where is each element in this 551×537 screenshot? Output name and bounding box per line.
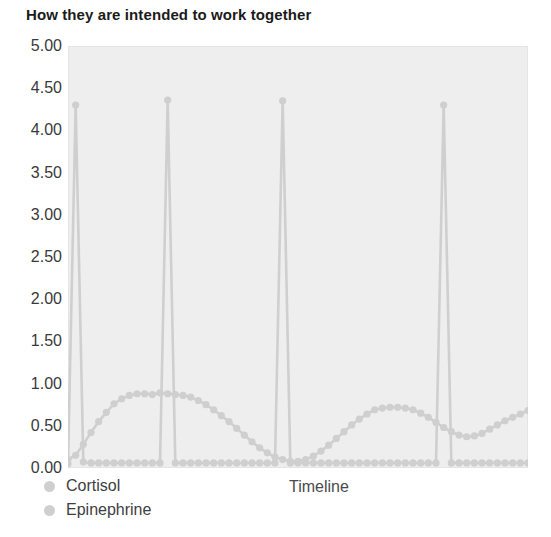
data-point bbox=[463, 433, 470, 440]
y-axis-tick-label: 0.50 bbox=[4, 417, 62, 435]
data-point bbox=[524, 459, 528, 466]
data-point bbox=[310, 453, 317, 460]
data-point bbox=[241, 459, 248, 466]
data-point bbox=[379, 459, 386, 466]
data-point bbox=[210, 406, 217, 413]
y-axis-tick-label: 4.50 bbox=[4, 79, 62, 97]
data-point bbox=[95, 459, 102, 466]
data-point bbox=[440, 101, 447, 108]
data-point bbox=[425, 459, 432, 466]
data-point bbox=[187, 394, 194, 401]
legend-swatch-epinephrine bbox=[44, 505, 55, 516]
data-point bbox=[241, 431, 248, 438]
data-point bbox=[471, 432, 478, 439]
data-point bbox=[179, 392, 186, 399]
data-point bbox=[325, 459, 332, 466]
data-point bbox=[72, 452, 79, 459]
data-point bbox=[87, 429, 94, 436]
data-point bbox=[118, 395, 125, 402]
data-point bbox=[287, 459, 294, 466]
chart-series-layer bbox=[68, 46, 528, 468]
data-point bbox=[103, 409, 110, 416]
data-point bbox=[333, 435, 340, 442]
data-point bbox=[310, 459, 317, 466]
data-point bbox=[248, 438, 255, 445]
data-point bbox=[386, 459, 393, 466]
chart-legend: Cortisol Epinephrine bbox=[44, 474, 151, 522]
data-point bbox=[110, 459, 117, 466]
data-point bbox=[471, 459, 478, 466]
legend-item-epinephrine[interactable]: Epinephrine bbox=[44, 498, 151, 522]
data-point bbox=[501, 417, 508, 424]
data-point bbox=[494, 459, 501, 466]
data-point bbox=[210, 459, 217, 466]
data-point bbox=[195, 397, 202, 404]
data-point bbox=[494, 421, 501, 428]
data-point bbox=[164, 96, 171, 103]
data-point bbox=[348, 459, 355, 466]
data-point bbox=[340, 428, 347, 435]
data-point bbox=[256, 444, 263, 451]
data-point bbox=[478, 430, 485, 437]
y-axis-tick-label: 1.00 bbox=[4, 375, 62, 393]
y-axis-tick-label: 3.00 bbox=[4, 206, 62, 224]
y-axis: 5.004.504.003.503.002.502.001.501.000.50… bbox=[0, 0, 62, 537]
data-point bbox=[133, 459, 140, 466]
legend-label-cortisol: Cortisol bbox=[66, 477, 120, 495]
data-point bbox=[187, 459, 194, 466]
data-point bbox=[402, 459, 409, 466]
data-point bbox=[233, 425, 240, 432]
data-point bbox=[386, 404, 393, 411]
data-point bbox=[195, 459, 202, 466]
data-point bbox=[509, 414, 516, 421]
data-point bbox=[379, 404, 386, 411]
data-point bbox=[156, 459, 163, 466]
data-point bbox=[126, 459, 133, 466]
data-point bbox=[463, 459, 470, 466]
data-point bbox=[517, 459, 524, 466]
data-point bbox=[302, 459, 309, 466]
y-axis-tick-label: 2.00 bbox=[4, 290, 62, 308]
legend-item-cortisol[interactable]: Cortisol bbox=[44, 474, 151, 498]
data-point bbox=[448, 459, 455, 466]
data-point bbox=[225, 459, 232, 466]
data-point bbox=[95, 418, 102, 425]
data-point bbox=[218, 459, 225, 466]
data-point bbox=[256, 459, 263, 466]
data-point bbox=[455, 431, 462, 438]
data-point bbox=[133, 390, 140, 397]
data-point bbox=[80, 458, 87, 465]
data-point bbox=[409, 406, 416, 413]
y-axis-tick-label: 1.50 bbox=[4, 332, 62, 350]
data-point bbox=[264, 459, 271, 466]
data-point bbox=[425, 414, 432, 421]
data-point bbox=[348, 421, 355, 428]
data-point bbox=[440, 424, 447, 431]
data-point bbox=[225, 418, 232, 425]
y-axis-tick-label: 2.50 bbox=[4, 248, 62, 266]
data-point bbox=[486, 426, 493, 433]
data-point bbox=[126, 392, 133, 399]
data-point bbox=[356, 415, 363, 422]
data-point bbox=[279, 97, 286, 104]
data-point bbox=[317, 459, 324, 466]
data-point bbox=[118, 459, 125, 466]
data-point bbox=[218, 412, 225, 419]
series-epinephrine bbox=[68, 96, 528, 467]
x-axis-label: Timeline bbox=[289, 478, 349, 496]
data-point bbox=[149, 391, 156, 398]
data-point bbox=[141, 390, 148, 397]
data-point bbox=[325, 442, 332, 449]
data-point bbox=[110, 400, 117, 407]
data-point bbox=[402, 404, 409, 411]
data-point bbox=[202, 401, 209, 408]
data-point bbox=[417, 410, 424, 417]
data-point bbox=[455, 459, 462, 466]
y-axis-tick-label: 4.00 bbox=[4, 121, 62, 139]
data-point bbox=[363, 410, 370, 417]
data-point bbox=[271, 459, 278, 466]
data-point bbox=[509, 459, 516, 466]
data-point bbox=[317, 448, 324, 455]
data-point bbox=[294, 459, 301, 466]
data-point bbox=[501, 459, 508, 466]
